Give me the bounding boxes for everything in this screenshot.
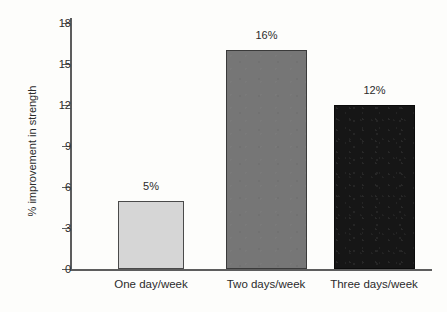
y-axis-tick: 9 (0, 146, 71, 147)
bar-rectangle (226, 50, 307, 269)
y-axis-tick: 18 (0, 23, 71, 24)
y-axis-tick: 15 (0, 64, 71, 65)
y-axis-tick-label: 18 (17, 17, 71, 29)
bar-rectangle (118, 201, 184, 269)
y-axis-tick-label: 12 (17, 99, 71, 111)
x-axis-category-label: Three days/week (304, 278, 444, 290)
y-axis-tick: 3 (0, 228, 71, 229)
bar-value-label: 16% (255, 29, 277, 41)
y-axis-tick-label: 15 (17, 58, 71, 70)
bar-rectangle (334, 105, 415, 269)
y-axis-tick: 6 (0, 187, 71, 188)
bar-chart-figure: % improvement in strength 0369121518 5%1… (0, 0, 447, 312)
bar-value-label: 5% (143, 180, 159, 192)
y-axis-tick-label: 9 (17, 140, 71, 152)
y-axis-tick: 0 (0, 269, 71, 270)
bar[interactable]: 5% (118, 201, 184, 269)
bar[interactable]: 12% (334, 105, 415, 269)
y-axis-tick-label: 6 (17, 181, 71, 193)
bar-value-label: 12% (363, 84, 385, 96)
y-axis-tick-label: 0 (17, 263, 71, 275)
y-axis-tick: 12 (0, 105, 71, 106)
x-axis-line (70, 269, 432, 271)
bar[interactable]: 16% (226, 50, 307, 269)
y-axis-tick-label: 3 (17, 222, 71, 234)
